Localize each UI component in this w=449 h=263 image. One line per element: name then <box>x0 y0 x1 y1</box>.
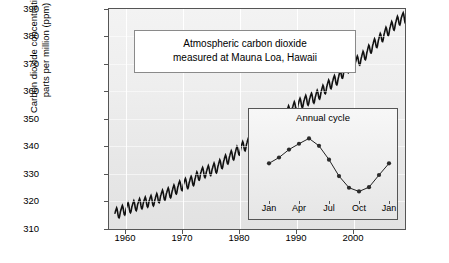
inset-annual-cycle: Annual cycle Jan Apr Jul Oct Jan <box>248 108 398 220</box>
inset-x-label: Oct <box>344 203 374 213</box>
inset-x-label: Jan <box>254 203 284 213</box>
x-tick-label: 2000 <box>333 232 373 243</box>
x-tick-label: 1960 <box>105 232 145 243</box>
x-tick-label: 1990 <box>276 232 316 243</box>
annotation-box: Atmospheric carbon dioxide measured at M… <box>134 30 356 73</box>
inset-x-label: Jan <box>374 203 404 213</box>
inset-x-label: Apr <box>284 203 314 213</box>
annotation-line-2: measured at Mauna Loa, Hawaii <box>139 51 351 65</box>
x-tick-label: 1970 <box>162 232 202 243</box>
gridline-vertical <box>126 9 127 229</box>
inset-x-label: Jul <box>314 203 344 213</box>
annotation-line-1: Atmospheric carbon dioxide <box>139 37 351 51</box>
chart-figure: Carbon dioxide concentration, parts per … <box>0 0 449 263</box>
x-tick-label: 1980 <box>219 232 259 243</box>
y-axis-title: Carbon dioxide concentration, parts per … <box>28 0 52 150</box>
gridline-horizontal <box>109 91 405 92</box>
